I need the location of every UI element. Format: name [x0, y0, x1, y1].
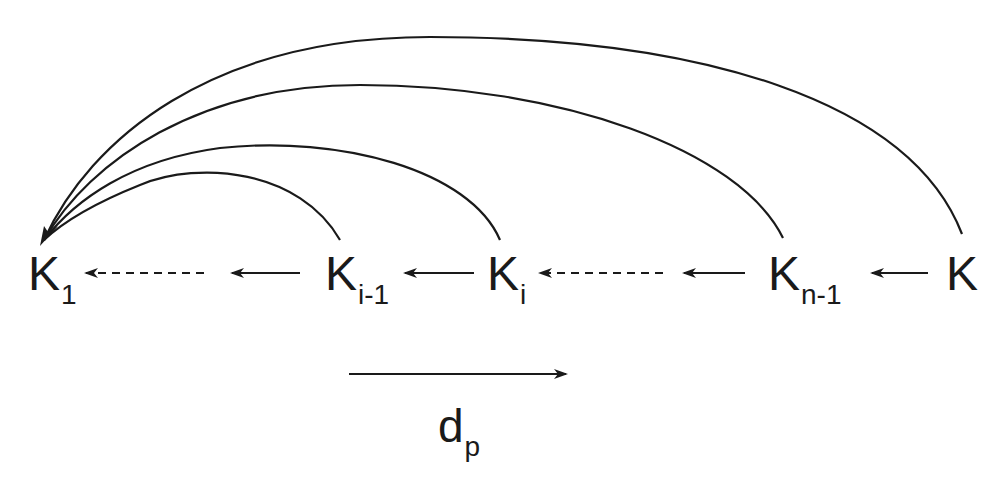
node-k1-base: K: [28, 247, 60, 300]
node-k1: K1: [28, 250, 77, 298]
node-k: K: [946, 250, 978, 298]
node-ki-base: K: [487, 247, 519, 300]
node-ki-sub: i: [520, 279, 526, 310]
node-ki-minus-1-sub: i-1: [358, 279, 389, 310]
node-kn-minus-1-sub: n-1: [801, 279, 841, 310]
direction-label-sub: p: [465, 431, 481, 462]
node-ki-minus-1-base: K: [325, 247, 357, 300]
direction-label-base: d: [438, 400, 464, 452]
node-kn-minus-1-base: K: [768, 247, 800, 300]
node-ki-minus-1: Ki-1: [325, 250, 389, 298]
direction-label: dp: [438, 403, 480, 449]
node-kn-minus-1: Kn-1: [768, 250, 841, 298]
diagram-canvas: [0, 0, 1007, 477]
node-k-base: K: [946, 247, 978, 300]
arc-ki-to-k1: [44, 145, 500, 240]
node-ki: Ki: [487, 250, 526, 298]
node-k1-sub: 1: [61, 279, 77, 310]
arc-k-to-k1: [44, 37, 962, 240]
